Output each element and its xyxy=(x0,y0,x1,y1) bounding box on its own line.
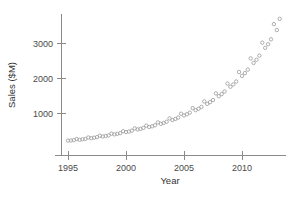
x-tick-label: 1995 xyxy=(58,163,78,173)
data-point xyxy=(278,17,281,20)
x-axis-title: Year xyxy=(160,175,179,186)
data-point xyxy=(255,58,258,61)
data-point xyxy=(272,22,275,25)
data-point xyxy=(246,68,249,71)
data-point xyxy=(269,38,272,41)
y-axis-title: Sales ($M) xyxy=(6,62,17,108)
data-point xyxy=(220,92,223,95)
data-point xyxy=(200,105,203,108)
data-point xyxy=(211,98,214,101)
data-point xyxy=(243,71,246,74)
y-tick-label: 3000 xyxy=(33,39,53,49)
x-tick-group: 1995200020052010 xyxy=(58,151,252,173)
data-point xyxy=(266,43,269,46)
data-point xyxy=(275,28,278,31)
data-point xyxy=(261,41,264,44)
y-tick-label: 2000 xyxy=(33,74,53,84)
data-point xyxy=(264,46,267,49)
scatter-chart: 100020003000 Sales ($M) 1995200020052010… xyxy=(0,0,294,198)
data-point xyxy=(203,100,206,103)
data-point xyxy=(237,70,240,73)
data-point-group xyxy=(66,17,281,142)
data-point xyxy=(226,82,229,85)
x-tick-label: 2010 xyxy=(232,163,252,173)
data-point xyxy=(235,80,238,83)
x-axis: 1995200020052010 Year xyxy=(55,151,286,186)
data-point xyxy=(258,54,261,57)
chart-page: 100020003000 Sales ($M) 1995200020052010… xyxy=(0,0,294,198)
data-point xyxy=(223,90,226,93)
y-axis: 100020003000 Sales ($M) xyxy=(6,14,66,155)
y-tick-label: 1000 xyxy=(33,109,53,119)
data-point xyxy=(214,92,217,95)
data-point xyxy=(252,61,255,64)
data-point xyxy=(232,83,235,86)
x-tick-label: 2000 xyxy=(116,163,136,173)
data-point xyxy=(249,57,252,60)
x-tick-label: 2005 xyxy=(174,163,194,173)
data-point xyxy=(188,111,191,114)
data-point xyxy=(240,74,243,77)
data-point xyxy=(165,120,168,123)
data-point xyxy=(177,116,180,119)
